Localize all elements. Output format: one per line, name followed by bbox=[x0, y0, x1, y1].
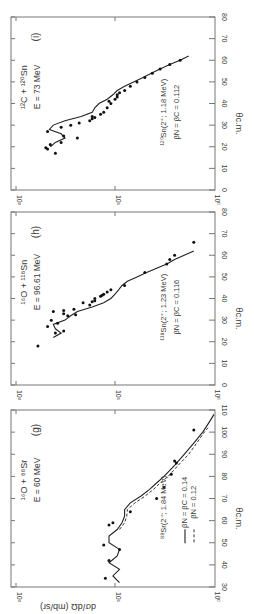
state-annotation: ¹¹⁸Sn(2⁺; 1.23 MeV) bbox=[159, 273, 168, 340]
angle-tick-label: 50 bbox=[221, 539, 228, 547]
data-point bbox=[93, 297, 96, 300]
data-point bbox=[135, 80, 138, 83]
state-annotation: ⁸⁸Sr(2⁺; 1.84 MeV) bbox=[159, 475, 168, 539]
data-point bbox=[106, 106, 109, 109]
data-point bbox=[129, 510, 132, 513]
data-point bbox=[123, 284, 126, 287]
data-point bbox=[44, 146, 47, 149]
data-point bbox=[69, 124, 72, 127]
data-point bbox=[109, 288, 112, 291]
cross-section-figure: 0102030405060708010²10¹10⁰θc.m.¹²C + ¹²⁰… bbox=[0, 0, 254, 614]
data-point bbox=[60, 141, 63, 144]
angle-tick-label: 10 bbox=[221, 164, 228, 172]
value-tick-label: 10¹ bbox=[115, 390, 122, 401]
data-point bbox=[88, 303, 91, 306]
data-point bbox=[50, 319, 53, 322]
data-point bbox=[52, 310, 55, 313]
value-tick-label: 10¹ bbox=[115, 195, 122, 206]
panel-label: (i) bbox=[30, 33, 41, 42]
data-point bbox=[104, 577, 107, 580]
angle-tick-label: 30 bbox=[221, 316, 228, 324]
angle-tick-label: 30 bbox=[221, 121, 228, 129]
value-tick-label: 10² bbox=[16, 592, 23, 603]
data-point bbox=[78, 121, 81, 124]
angle-tick-label: 40 bbox=[221, 561, 228, 569]
data-point bbox=[54, 332, 57, 335]
data-point bbox=[143, 271, 146, 274]
panel-label: (g) bbox=[30, 424, 41, 436]
angle-tick-label: 50 bbox=[221, 273, 228, 281]
data-point bbox=[107, 524, 110, 527]
panel-label: (h) bbox=[30, 226, 41, 238]
energy-label: E = 60 MeV bbox=[32, 457, 42, 502]
data-point bbox=[88, 119, 91, 122]
angle-tick-label: 60 bbox=[221, 251, 228, 259]
energy-label: E = 73 MeV bbox=[32, 64, 42, 109]
data-point bbox=[114, 98, 117, 101]
theta-axis-label: θc.m. bbox=[234, 507, 244, 529]
angle-tick-label: 110 bbox=[221, 404, 228, 415]
data-point bbox=[107, 100, 110, 103]
data-point bbox=[46, 325, 49, 328]
data-point bbox=[46, 130, 49, 133]
theta-axis-label: θc.m. bbox=[234, 307, 244, 329]
data-point bbox=[159, 67, 162, 70]
data-point bbox=[116, 93, 119, 96]
data-point bbox=[155, 497, 158, 500]
legend-label: βN = βC = 0.14 bbox=[180, 477, 189, 528]
data-point bbox=[168, 258, 171, 261]
data-point bbox=[168, 63, 171, 66]
angle-tick-label: 70 bbox=[221, 495, 228, 503]
data-point bbox=[111, 521, 114, 524]
value-tick-label: 10⁰ bbox=[214, 195, 221, 206]
angle-tick-label: 30 bbox=[221, 583, 228, 591]
legend-label: βN = 0.12 bbox=[189, 486, 198, 519]
data-point bbox=[173, 459, 176, 462]
angle-tick-label: 20 bbox=[221, 338, 228, 346]
data-point bbox=[56, 322, 59, 325]
angle-tick-label: 70 bbox=[221, 230, 228, 238]
value-tick-label: 10⁰ bbox=[214, 592, 221, 603]
data-point bbox=[170, 473, 173, 476]
angle-tick-label: 100 bbox=[221, 426, 228, 438]
data-point bbox=[102, 111, 105, 114]
text-labels: 0102030405060708010²10¹10⁰θc.m.¹²C + ¹²⁰… bbox=[16, 13, 244, 612]
data-point bbox=[66, 314, 69, 317]
state-annotation: βN = βC = 0.112 bbox=[172, 85, 181, 140]
data-point bbox=[165, 262, 168, 265]
angle-tick-label: 10 bbox=[221, 359, 228, 367]
value-tick-label: 10⁰ bbox=[214, 390, 221, 401]
data-point bbox=[62, 134, 65, 137]
data-point bbox=[74, 313, 77, 316]
data-point bbox=[106, 291, 109, 294]
state-annotation: βN = βC = 0.116 bbox=[172, 280, 181, 335]
data-point bbox=[102, 293, 105, 296]
data-point bbox=[118, 548, 121, 551]
data-point bbox=[60, 126, 63, 129]
data-point bbox=[179, 59, 182, 62]
angle-tick-label: 80 bbox=[221, 472, 228, 480]
data-point bbox=[62, 309, 65, 312]
angle-tick-label: 20 bbox=[221, 143, 228, 151]
state-annotation: ¹²⁰Sn(2⁺; 1.18 MeV) bbox=[159, 78, 168, 145]
data-point bbox=[143, 76, 146, 79]
data-point bbox=[49, 143, 52, 146]
data-point bbox=[82, 301, 85, 304]
data-point bbox=[91, 115, 94, 118]
angle-tick-label: 0 bbox=[221, 383, 228, 387]
data-point bbox=[192, 428, 195, 431]
angle-tick-label: 70 bbox=[221, 35, 228, 43]
angle-tick-label: 60 bbox=[221, 517, 228, 525]
data-point bbox=[62, 329, 65, 332]
angle-tick-label: 50 bbox=[221, 78, 228, 86]
data-point bbox=[76, 137, 79, 140]
data-point bbox=[93, 116, 96, 119]
theta-axis-label: θc.m. bbox=[234, 112, 244, 134]
angle-tick-label: 80 bbox=[221, 208, 228, 216]
value-tick-label: 10² bbox=[16, 195, 23, 206]
data-point bbox=[36, 345, 39, 348]
data-point bbox=[102, 543, 105, 546]
angle-tick-label: 90 bbox=[221, 450, 228, 458]
data-point bbox=[62, 312, 65, 315]
data-point bbox=[91, 300, 94, 303]
